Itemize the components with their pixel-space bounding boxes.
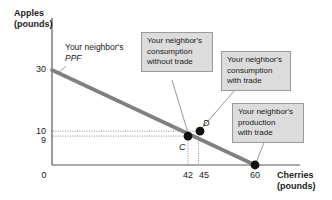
point-d-marker	[196, 127, 205, 136]
x-tick-label-60: 60	[243, 170, 267, 180]
callout-production-with-trade: Your neighbor's production with trade	[232, 103, 304, 143]
x-axis-title: Cherries (pounds)	[277, 170, 316, 191]
leader-ppf-label	[58, 66, 66, 73]
point-production-marker	[251, 161, 260, 170]
y-axis-title: Apples (pounds)	[14, 8, 53, 29]
ppf-chart-figure: Apples (pounds) Cherries (pounds) 30 10 …	[0, 0, 332, 200]
point-c-marker	[184, 132, 193, 141]
point-c-label: C	[179, 142, 186, 152]
ppf-annotation-line1: Your neighbor's	[65, 42, 124, 53]
point-d-label: D	[203, 118, 210, 128]
x-axis-title-line1: Cherries	[277, 170, 316, 181]
y-tick-label-30: 30	[22, 64, 46, 74]
y-tick-label-9: 9	[22, 135, 46, 145]
x-tick-label-45: 45	[192, 170, 216, 180]
ppf-annotation: Your neighbor's PPF	[65, 42, 124, 63]
leader-production-with-trade	[256, 140, 265, 163]
ppf-annotation-abbr: PPF	[65, 53, 124, 64]
x-axis-title-line2: (pounds)	[277, 181, 316, 192]
origin-label: 0	[36, 170, 52, 180]
y-axis-title-line2: (pounds)	[14, 19, 53, 30]
leader-consumption-without-trade	[172, 80, 188, 133]
callout-consumption-without-trade: Your neighbor's consumption without trad…	[141, 32, 213, 72]
y-axis-title-line1: Apples	[14, 8, 53, 19]
callout-consumption-with-trade: Your neighbor's consumption with trade	[221, 51, 291, 91]
